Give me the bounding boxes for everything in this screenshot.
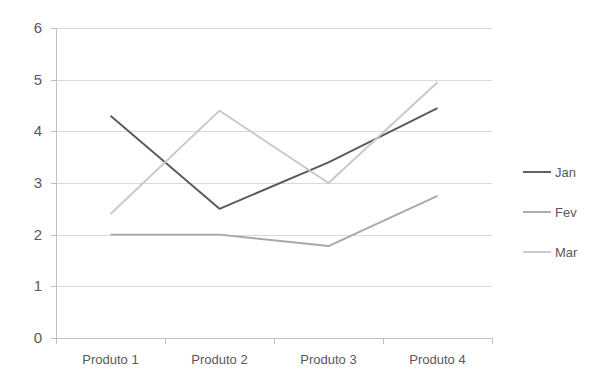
legend-label-mar: Mar [555,245,578,260]
line-chart: 0123456 Produto 1Produto 2Produto 3Produ… [0,0,612,391]
x-tick-labels: Produto 1Produto 2Produto 3Produto 4 [82,352,465,367]
y-tick-label: 4 [34,122,42,139]
y-tick-label: 0 [34,329,42,346]
y-axis [51,28,57,339]
x-tick-label: Produto 3 [300,352,356,367]
y-tick-label: 1 [34,277,42,294]
data-series [111,82,438,246]
y-tick-labels: 0123456 [34,19,42,346]
legend-label-jan: Jan [555,165,576,180]
y-tick-label: 5 [34,71,42,88]
x-tick-label: Produto 4 [409,352,465,367]
chart-canvas: 0123456 Produto 1Produto 2Produto 3Produ… [0,0,612,391]
x-tick-label: Produto 2 [191,352,247,367]
chart-legend: JanFevMar [523,165,578,260]
x-axis [56,338,493,344]
y-tick-label: 3 [34,174,42,191]
series-line-mar [111,82,438,214]
gridlines [56,29,492,339]
series-line-fev [111,196,438,246]
y-tick-label: 6 [34,19,42,36]
x-tick-label: Produto 1 [82,352,138,367]
y-tick-label: 2 [34,226,42,243]
legend-label-fev: Fev [555,205,577,220]
series-line-jan [111,108,438,209]
